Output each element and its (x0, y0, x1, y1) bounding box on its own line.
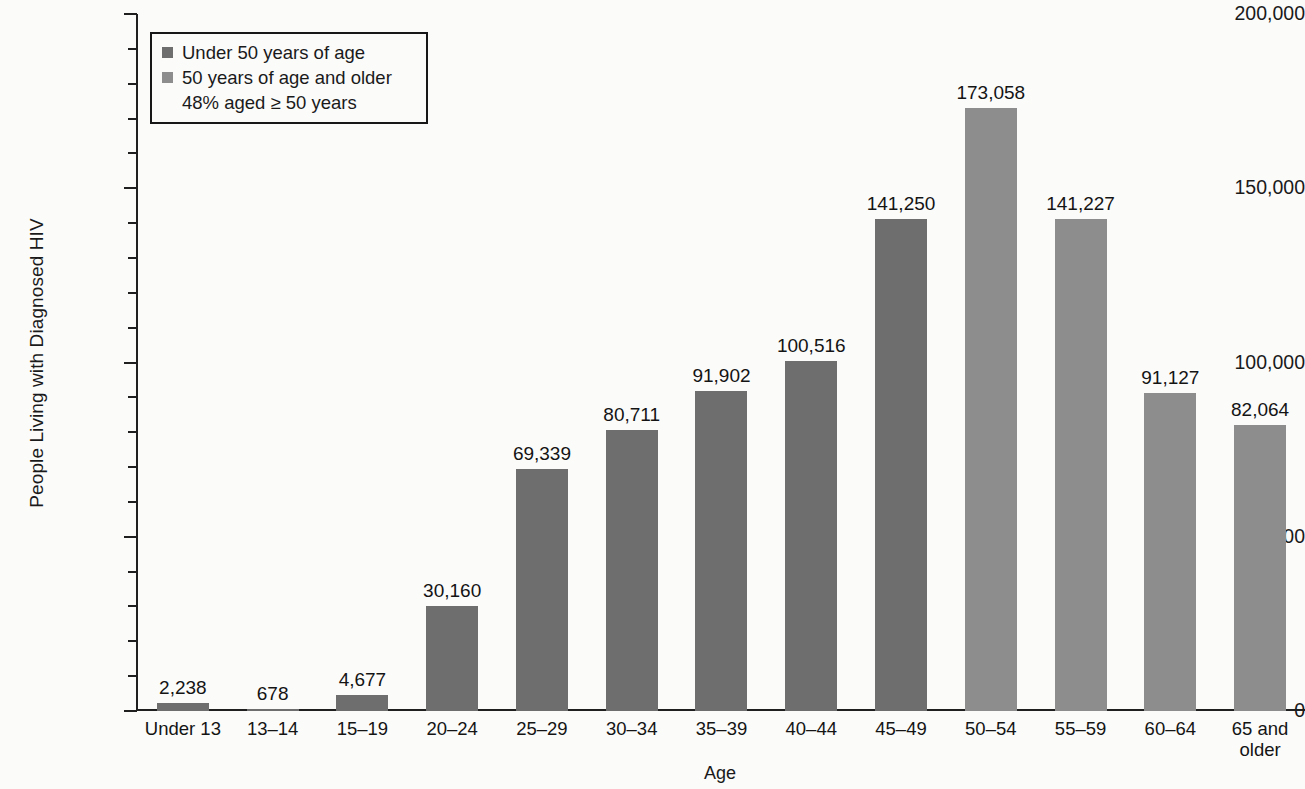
x-axis-category-label-line: 13–14 (228, 718, 318, 739)
y-axis-minor-tick (128, 640, 137, 642)
bar-value-label: 141,250 (867, 194, 936, 213)
bar[interactable] (516, 469, 568, 711)
bar-value-label: 141,227 (1046, 194, 1115, 213)
legend-swatch-over50-icon (162, 72, 173, 83)
y-axis-minor-tick (128, 605, 137, 607)
x-axis-category-label: 13–14 (228, 718, 318, 739)
bar[interactable] (426, 606, 478, 711)
x-axis-category-label-line: Under 13 (138, 718, 228, 739)
x-axis-category-label-line: 20–24 (407, 718, 497, 739)
y-axis-minor-tick (128, 257, 137, 259)
bar-slot: 141,250 (856, 14, 946, 711)
y-axis-minor-tick (128, 292, 137, 294)
y-axis-major-tick (124, 362, 137, 364)
x-axis-category-label-line: older (1215, 739, 1305, 760)
bar[interactable] (695, 391, 747, 711)
bar-value-label: 69,339 (513, 444, 571, 463)
x-axis-category-label-line: 45–49 (856, 718, 946, 739)
bar[interactable] (1234, 425, 1286, 711)
legend-swatch-under50-icon (162, 47, 173, 58)
bar-slot: 69,339 (497, 14, 587, 711)
bar[interactable] (965, 108, 1017, 711)
bar[interactable] (606, 430, 658, 711)
bar-slot: 141,227 (1036, 14, 1126, 711)
bar-value-label: 30,160 (423, 581, 481, 600)
bar[interactable] (247, 709, 299, 711)
y-axis-major-tick (124, 536, 137, 538)
x-axis-category-label-line: 15–19 (318, 718, 408, 739)
bar-slot: 100,516 (766, 14, 856, 711)
legend-label-over50: 50 years of age and older (182, 65, 392, 90)
x-axis-category-label: Under 13 (138, 718, 228, 739)
x-axis-category-label: 20–24 (407, 718, 497, 739)
legend-item-under50: Under 50 years of age (162, 40, 416, 65)
x-axis-category-label-line: 60–64 (1125, 718, 1215, 739)
x-axis-title: Age (660, 763, 780, 784)
bar-slot: 173,058 (946, 14, 1036, 711)
y-axis-minor-tick (128, 152, 137, 154)
bar-value-label: 4,677 (339, 670, 387, 689)
bar-value-label: 2,238 (159, 678, 207, 697)
bar-chart-figure: People Living with Diagnosed HIV 200,000… (0, 0, 1305, 789)
x-axis-category-label: 50–54 (946, 718, 1036, 739)
legend-label-under50: Under 50 years of age (182, 40, 365, 65)
x-axis-category-label-line: 50–54 (946, 718, 1036, 739)
bar[interactable] (1144, 393, 1196, 711)
x-axis-category-label: 65 andolder (1215, 718, 1305, 760)
bar-value-label: 173,058 (956, 83, 1025, 102)
y-axis-minor-tick (128, 396, 137, 398)
y-axis-minor-tick (128, 501, 137, 503)
y-axis-major-tick (124, 187, 137, 189)
bar-value-label: 91,902 (692, 366, 750, 385)
legend-item-over50: 50 years of age and older (162, 65, 416, 90)
y-axis-minor-tick (128, 327, 137, 329)
bar[interactable] (875, 219, 927, 711)
bar-value-label: 678 (257, 684, 289, 703)
x-axis-category-label-line: 35–39 (677, 718, 767, 739)
bar[interactable] (785, 361, 837, 711)
bar[interactable] (336, 695, 388, 711)
y-axis-minor-tick (128, 222, 137, 224)
x-axis-category-label: 25–29 (497, 718, 587, 739)
x-axis-category-label: 15–19 (318, 718, 408, 739)
bar[interactable] (1055, 219, 1107, 711)
x-axis-category-label: 45–49 (856, 718, 946, 739)
x-axis-category-label-line: 55–59 (1036, 718, 1126, 739)
y-axis-minor-tick (128, 83, 137, 85)
bar-value-label: 100,516 (777, 336, 846, 355)
bar-value-label: 82,064 (1231, 400, 1289, 419)
x-axis-category-label-line: 25–29 (497, 718, 587, 739)
bar-slot: 91,127 (1125, 14, 1215, 711)
bar[interactable] (157, 703, 209, 711)
x-axis-category-label-line: 30–34 (587, 718, 677, 739)
y-axis-minor-tick (128, 118, 137, 120)
legend: Under 50 years of age 50 years of age an… (150, 32, 428, 124)
bar-slot: 80,711 (587, 14, 677, 711)
y-axis-minor-tick (128, 48, 137, 50)
y-axis-minor-tick (128, 431, 137, 433)
bar-slot: 91,902 (677, 14, 767, 711)
x-axis-category-label: 35–39 (677, 718, 767, 739)
x-axis-category-label-line: 40–44 (766, 718, 856, 739)
x-axis-category-label-line: 65 and (1215, 718, 1305, 739)
y-axis-minor-tick (128, 675, 137, 677)
bar-slot: 82,064 (1215, 14, 1305, 711)
bar-value-label: 80,711 (603, 405, 660, 424)
legend-note: 48% aged ≥ 50 years (162, 90, 416, 115)
y-axis-minor-tick (128, 571, 137, 573)
bar-value-label: 91,127 (1141, 368, 1199, 387)
x-axis-category-label: 30–34 (587, 718, 677, 739)
x-axis-category-label: 55–59 (1036, 718, 1126, 739)
y-axis-major-tick (124, 13, 137, 15)
x-axis-category-label: 60–64 (1125, 718, 1215, 739)
y-axis-title: People Living with Diagnosed HIV (26, 43, 48, 683)
y-axis-minor-tick (128, 466, 137, 468)
x-axis-category-label: 40–44 (766, 718, 856, 739)
